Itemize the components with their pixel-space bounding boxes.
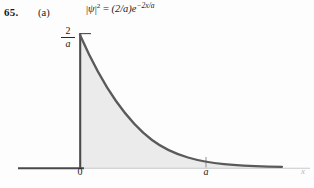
equation-coefficient: (2/a): [111, 3, 131, 14]
y-axis-label-denominator: a: [60, 39, 76, 50]
x-axis-name-label: x: [301, 166, 305, 176]
equation-annotation: |ψ|2 = (2/a)e−2x/a: [86, 3, 155, 16]
equation-equals-sign: =: [103, 3, 109, 14]
curve-fill-area: [80, 35, 282, 168]
y-axis-value-label: 2 a: [60, 26, 76, 49]
x-tick-label-a: a: [198, 166, 214, 177]
x-tick-label-origin: 0: [72, 166, 88, 177]
y-axis-label-numerator: 2: [60, 26, 76, 37]
equation-decay-exponent: −2x/a: [137, 1, 155, 10]
wavefunction-probability-density-plot: [0, 0, 314, 188]
figure-page: 65. (a) |ψ|2 = (2/a)e−2x/a 2 a: [0, 0, 314, 188]
equation-squared-exponent: 2: [97, 2, 101, 10]
